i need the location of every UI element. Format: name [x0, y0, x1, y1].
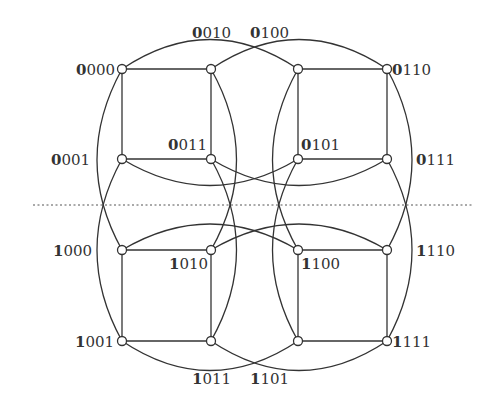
- node-label-1000: 1000: [53, 242, 92, 260]
- node-label-1111: 1111: [392, 333, 431, 351]
- label-leading-bit: 1: [250, 370, 260, 388]
- label-remaining-bits: 110: [426, 242, 455, 260]
- node-0101: [294, 155, 303, 164]
- node-1110: [383, 246, 392, 255]
- label-leading-bit: 1: [192, 370, 202, 388]
- node-0110: [383, 65, 392, 74]
- node-0100: [207, 65, 216, 74]
- node-label-0111: 0111: [416, 151, 455, 169]
- label-leading-bit: 0: [76, 61, 86, 79]
- node-label-0000: 0000: [76, 61, 115, 79]
- label-leading-bit: 1: [53, 242, 63, 260]
- node-label-0001: 0001: [51, 151, 90, 169]
- node-1011: [207, 337, 216, 346]
- label-leading-bit: 0: [168, 136, 178, 154]
- node-label-1001: 1001: [75, 333, 114, 351]
- label-remaining-bits: 001: [61, 151, 90, 169]
- label-remaining-bits: 001: [85, 333, 114, 351]
- node-1101: [294, 337, 303, 346]
- node-1100: [294, 246, 303, 255]
- label-remaining-bits: 000: [63, 242, 92, 260]
- label-remaining-bits: 011: [178, 136, 207, 154]
- label-remaining-bits: 010: [179, 255, 208, 273]
- label-remaining-bits: 000: [86, 61, 115, 79]
- hypercube-diagram: 0000010000100110000100110101011110001010…: [0, 0, 501, 406]
- label-remaining-bits: 010: [202, 24, 231, 42]
- node-0111: [383, 155, 392, 164]
- node-1000: [118, 246, 127, 255]
- label-leading-bit: 0: [392, 61, 402, 79]
- node-label-0110: 0110: [392, 61, 431, 79]
- node-0011: [207, 155, 216, 164]
- label-leading-bit: 1: [392, 333, 402, 351]
- labels-group: 0000010000100110000100110101011110001010…: [51, 24, 455, 388]
- node-label-0100: 0100: [250, 24, 289, 42]
- node-label-1100: 1100: [301, 255, 340, 273]
- node-label-1010: 1010: [169, 255, 208, 273]
- node-1111: [383, 337, 392, 346]
- label-remaining-bits: 101: [260, 370, 289, 388]
- node-label-0011: 0011: [168, 136, 207, 154]
- label-leading-bit: 1: [301, 255, 311, 273]
- label-remaining-bits: 100: [260, 24, 289, 42]
- label-leading-bit: 0: [250, 24, 260, 42]
- node-label-0101: 0101: [301, 136, 340, 154]
- label-remaining-bits: 111: [402, 333, 431, 351]
- label-leading-bit: 1: [416, 242, 426, 260]
- label-remaining-bits: 011: [202, 370, 231, 388]
- node-label-0010: 0010: [192, 24, 231, 42]
- node-0001: [118, 155, 127, 164]
- label-remaining-bits: 111: [426, 151, 455, 169]
- label-remaining-bits: 110: [402, 61, 431, 79]
- node-0000: [118, 65, 127, 74]
- label-remaining-bits: 101: [311, 136, 340, 154]
- node-label-1110: 1110: [416, 242, 455, 260]
- label-leading-bit: 1: [75, 333, 85, 351]
- label-leading-bit: 0: [301, 136, 311, 154]
- label-leading-bit: 0: [416, 151, 426, 169]
- label-leading-bit: 1: [169, 255, 179, 273]
- label-remaining-bits: 100: [311, 255, 340, 273]
- label-leading-bit: 0: [192, 24, 202, 42]
- node-0010: [294, 65, 303, 74]
- node-label-1101: 1101: [250, 370, 289, 388]
- node-1010: [207, 246, 216, 255]
- node-label-1011: 1011: [192, 370, 231, 388]
- label-leading-bit: 0: [51, 151, 61, 169]
- node-1001: [118, 337, 127, 346]
